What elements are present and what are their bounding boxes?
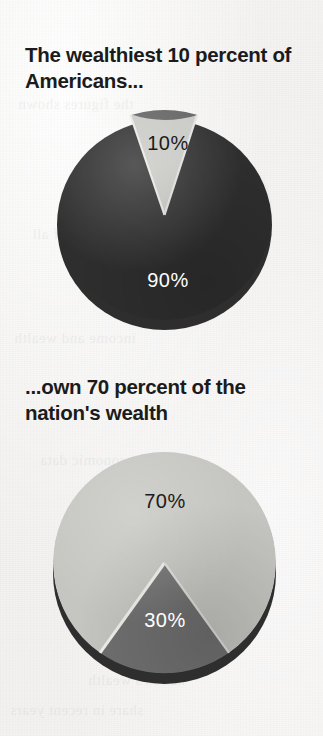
pie-face	[53, 452, 276, 674]
pie-label-major: 70%	[144, 490, 186, 513]
pie-label-major: 90%	[147, 269, 189, 292]
pie-slice-minor	[130, 114, 197, 215]
bleed-text: share in recent years	[10, 702, 143, 719]
pie-chart-population-share: 10% 90%	[57, 110, 272, 320]
pie-chart-wealth-share: 70% 30%	[53, 452, 276, 674]
pie-label-minor: 10%	[147, 132, 189, 155]
infographic-page: the figures shown percent of all income …	[0, 0, 323, 736]
caption-top: The wealthiest 10 percent of Americans..…	[25, 42, 303, 94]
caption-bottom: ...own 70 percent of the nation's wealth	[25, 374, 303, 426]
pie-slices-svg	[53, 452, 276, 674]
pie-label-minor: 30%	[144, 609, 186, 632]
bleed-text: income and wealth	[14, 330, 136, 347]
